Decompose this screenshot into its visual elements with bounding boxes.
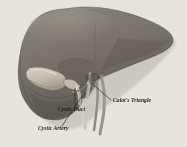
liver-anatomy-figure: Calot's Triangle Cystic Duct Cystic Arte… <box>0 0 187 147</box>
scan-grain-overlay <box>0 0 187 147</box>
liver-illustration: Calot's Triangle Cystic Duct Cystic Arte… <box>0 0 187 147</box>
